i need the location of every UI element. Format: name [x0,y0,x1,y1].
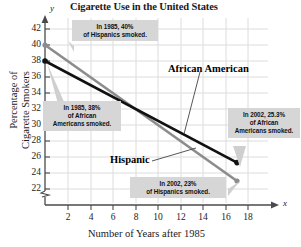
x-tick-2: 2 [61,212,75,222]
x-axis-title: Number of Years after 1985 [88,228,205,239]
callout-hispanic-1985-line2: of Hispanics smoked. [75,31,155,39]
y-axis-letter: y [50,3,54,13]
callout-hispanic-2002-line2: of Hispanics smoked. [133,188,223,196]
x-tick-6: 6 [106,212,120,222]
x-tick-10: 10 [151,212,165,222]
series-label-hispanic: Hispanic [110,154,150,165]
data-point-hispanic-2002 [234,178,239,183]
y-axis-title-line1: Percentage of [8,40,19,160]
callout-aa-2002-line3: Americans smoked. [231,127,297,135]
x-tick-marks [68,205,248,210]
callout-african-american-2002: In 2002, 25.3% of African Americans smok… [228,108,300,138]
cigarette-use-chart: Cigarette Use in the United States y x 4… [0,0,301,247]
callout-hispanic-1985-line1: In 1985, 40% [75,23,155,31]
x-tick-4: 4 [84,212,98,222]
x-tick-8: 8 [129,212,143,222]
x-tick-14: 14 [196,212,210,222]
callout-aa-2002-line2: of African [231,119,297,127]
x-tick-12: 12 [174,212,188,222]
x-tick-16: 16 [219,212,233,222]
y-axis-break-icon [41,191,49,197]
data-point-african-american-1985 [42,58,48,64]
y-axis-arrow [42,15,49,23]
callout-hispanic-2002-line1: In 2002, 23% [133,180,223,188]
y-tick-42: 42 [25,23,41,33]
callout-tail-hispanic-1985 [68,41,74,52]
y-tick-22: 22 [25,183,41,193]
callout-aa-1985-line1: In 1985, 38% [46,104,118,112]
series-label-african-american: African American [168,63,249,74]
callout-hispanic-2002: In 2002, 23% of Hispanics smoked. [130,177,226,198]
y-axis-title-line2: Cigarette Smokers [20,40,31,180]
page-title: Cigarette Use in the United States [70,1,218,12]
x-axis-letter: x [283,198,287,208]
callout-aa-1985-line2: of African [46,112,118,120]
x-tick-18: 18 [241,212,255,222]
leader-line-hispanic [152,148,196,161]
data-point-hispanic-1985 [42,42,47,47]
callout-aa-1985-line3: Americans smoked. [46,120,118,128]
callout-hispanic-1985: In 1985, 40% of Hispanics smoked. [72,20,158,41]
x-axis-arrow [271,202,279,209]
callout-african-american-1985: In 1985, 38% of African Americans smoked… [43,101,121,131]
callout-aa-2002-line1: In 2002, 25.3% [231,111,297,119]
